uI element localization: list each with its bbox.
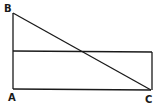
rectangle-top-edge xyxy=(13,51,152,52)
label-a: A xyxy=(8,92,16,103)
geometry-diagram: B A C xyxy=(0,0,161,106)
label-b: B xyxy=(4,3,12,14)
label-c: C xyxy=(145,94,152,105)
segment-ac xyxy=(13,89,151,90)
